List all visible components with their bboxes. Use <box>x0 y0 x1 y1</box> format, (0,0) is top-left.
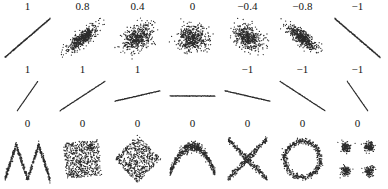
scatter-plot <box>275 131 330 187</box>
data-points <box>280 138 323 181</box>
scatter-plot <box>55 77 110 115</box>
data-points <box>334 18 380 59</box>
data-points <box>61 18 105 58</box>
scatter-panel: −0.4 <box>220 0 275 62</box>
data-points <box>279 81 325 111</box>
scatter-plot <box>0 77 55 115</box>
data-points <box>114 90 160 102</box>
correlation-label: 0 <box>25 117 31 131</box>
row-varying-slope: 111 −1−1−1 <box>0 63 388 118</box>
correlation-label: −1 <box>242 63 254 77</box>
scatter-panel <box>165 63 220 115</box>
scatter-panel: −1 <box>275 63 330 115</box>
scatter-panel: −1 <box>330 63 385 115</box>
scatter-plot <box>110 14 165 62</box>
correlation-examples-figure: 10.80.40−0.4−0.8−1 111 −1−1−1 0000000 <box>0 0 388 189</box>
correlation-label: 0 <box>190 0 196 14</box>
scatter-plot <box>330 131 385 187</box>
data-points <box>347 81 369 112</box>
scatter-panel: −0.8 <box>275 0 330 62</box>
scatter-panel: 1 <box>55 63 110 115</box>
data-points <box>4 141 50 184</box>
correlation-label: 0.8 <box>75 0 89 14</box>
data-points <box>227 136 267 180</box>
correlation-label: −0.8 <box>292 0 312 14</box>
correlation-label: −1 <box>352 0 364 14</box>
scatter-plot <box>165 14 220 62</box>
scatter-plot <box>110 77 165 115</box>
correlation-label: 0 <box>355 117 361 131</box>
scatter-panel: 0 <box>275 117 330 187</box>
scatter-panel: 0 <box>165 117 220 187</box>
scatter-panel: 1 <box>110 63 165 115</box>
correlation-label: −1 <box>352 63 364 77</box>
scatter-plot <box>330 14 385 62</box>
scatter-plot <box>0 14 55 62</box>
scatter-panel: −1 <box>330 0 385 62</box>
scatter-plot <box>0 131 55 187</box>
data-points <box>337 139 376 178</box>
scatter-plot <box>220 77 275 115</box>
scatter-plot <box>275 77 330 115</box>
correlation-label: −1 <box>297 63 309 77</box>
scatter-plot <box>275 14 330 62</box>
scatter-plot <box>330 77 385 115</box>
scatter-panel: 0 <box>0 117 55 187</box>
data-points <box>17 81 39 111</box>
correlation-label: 0.4 <box>130 0 144 14</box>
scatter-plot <box>55 14 110 62</box>
correlation-label: 1 <box>25 0 31 14</box>
row-varying-correlation: 10.80.40−0.4−0.8−1 <box>0 0 388 64</box>
data-points <box>116 135 162 183</box>
scatter-plot <box>220 131 275 187</box>
correlation-label: 0 <box>80 117 86 131</box>
scatter-panel: −1 <box>220 63 275 115</box>
data-points <box>63 139 102 179</box>
scatter-plot <box>110 131 165 187</box>
scatter-panel: 0 <box>55 117 110 187</box>
data-points <box>169 95 215 97</box>
correlation-label: 1 <box>80 63 86 77</box>
scatter-plot <box>220 14 275 62</box>
data-points <box>169 141 215 176</box>
correlation-label <box>191 63 194 77</box>
data-points <box>224 90 270 102</box>
data-points <box>230 18 269 56</box>
scatter-panel: 0 <box>330 117 385 187</box>
correlation-label: 0 <box>300 117 306 131</box>
scatter-panel: 1 <box>0 0 55 62</box>
correlation-label: 1 <box>135 63 141 77</box>
correlation-label: 0 <box>245 117 251 131</box>
scatter-plot <box>165 131 220 187</box>
scatter-panel: 0.4 <box>110 0 165 62</box>
data-points <box>114 17 158 59</box>
data-points <box>280 18 323 53</box>
data-points <box>4 18 50 58</box>
scatter-panel: 0 <box>110 117 165 187</box>
scatter-panel: 0 <box>165 0 220 62</box>
scatter-plot <box>55 131 110 187</box>
scatter-panel: 0.8 <box>55 0 110 62</box>
correlation-label: 0 <box>190 117 196 131</box>
scatter-plot <box>165 77 220 115</box>
scatter-panel: 1 <box>0 63 55 115</box>
correlation-label: 0 <box>135 117 141 131</box>
data-points <box>59 81 105 112</box>
correlation-label: 1 <box>25 63 31 77</box>
correlation-label: −0.4 <box>237 0 257 14</box>
data-points <box>169 18 214 54</box>
scatter-panel: 0 <box>220 117 275 187</box>
row-nonlinear-zero: 0000000 <box>0 117 388 189</box>
